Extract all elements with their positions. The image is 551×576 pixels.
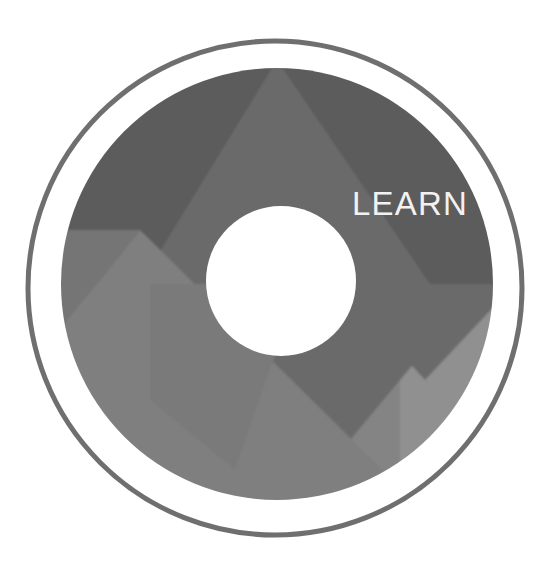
learn-label: LEARN [352,185,468,222]
emblem-stage: LEARN [0,0,551,576]
emblem-graphic: LEARN [0,0,551,576]
center-hole [206,206,356,356]
